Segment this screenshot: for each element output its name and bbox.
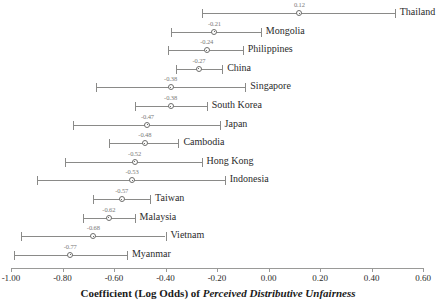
estimate-row: -0.24Philippines (0, 39, 436, 57)
x-axis-tick (372, 268, 373, 272)
point-estimate-value-label: -0.53 (125, 168, 138, 175)
point-estimate-marker (168, 84, 174, 90)
estimate-row: -0.52Hong Kong (0, 151, 436, 169)
confidence-interval-cap-high (150, 195, 151, 204)
x-axis-title-italic: Perceived Distributive Unfairness (203, 287, 356, 299)
confidence-interval-cap-high (222, 65, 223, 74)
point-estimate-marker (168, 103, 174, 109)
estimate-row: 0.12Thailand (0, 2, 436, 20)
confidence-interval-cap-low (73, 121, 74, 130)
estimate-row: -0.38Singapore (0, 76, 436, 94)
confidence-interval-cap-high (178, 139, 179, 148)
x-axis-tick (269, 268, 270, 272)
point-estimate-marker (90, 233, 96, 239)
point-estimate-marker (106, 215, 112, 221)
x-axis-tick-label: 0.40 (364, 273, 380, 283)
estimate-row: -0.48Cambodia (0, 132, 436, 150)
point-estimate-value-label: -0.47 (141, 113, 154, 120)
point-estimate-value-label: -0.62 (102, 206, 115, 213)
x-axis-tick-label: 0.60 (415, 273, 431, 283)
confidence-interval-cap-low (83, 214, 84, 223)
estimate-row: -0.27China (0, 58, 436, 76)
estimate-row: -0.77Myanmar (0, 244, 436, 262)
estimate-row: -0.68Vietnam (0, 225, 436, 243)
category-label: Hong Kong (207, 155, 254, 166)
x-axis-tick (217, 268, 218, 272)
x-axis-tick-label: -0.20 (208, 273, 227, 283)
point-estimate-value-label: -0.77 (64, 243, 77, 250)
x-axis-tick-label: 0.00 (261, 273, 277, 283)
point-estimate-marker (196, 66, 202, 72)
x-axis-tick-label: -0.60 (105, 273, 124, 283)
confidence-interval-cap-low (168, 46, 169, 55)
confidence-interval-cap-high (207, 102, 208, 111)
point-estimate-marker (204, 47, 210, 53)
confidence-interval-cap-high (245, 83, 246, 92)
confidence-interval-cap-high (166, 232, 167, 241)
x-axis-title: Coefficient (Log Odds) of Perceived Dist… (0, 287, 436, 299)
confidence-interval-cap-low (93, 195, 94, 204)
category-label: South Korea (212, 99, 262, 110)
point-estimate-marker (144, 122, 150, 128)
category-label: Mongolia (266, 25, 305, 36)
confidence-interval-cap-low (176, 65, 177, 74)
point-estimate-marker (211, 29, 217, 35)
confidence-interval-cap-high (135, 214, 136, 223)
point-estimate-value-label: -0.52 (128, 150, 141, 157)
confidence-interval-cap-high (225, 176, 226, 185)
confidence-interval-cap-low (202, 9, 203, 18)
estimate-row: -0.62Malaysia (0, 207, 436, 225)
point-estimate-value-label: -0.24 (200, 38, 213, 45)
confidence-interval-cap-high (261, 28, 262, 37)
confidence-interval-cap-low (135, 102, 136, 111)
point-estimate-value-label: -0.38 (164, 75, 177, 82)
confidence-interval-cap-low (171, 28, 172, 37)
x-axis-tick (166, 268, 167, 272)
point-estimate-marker (129, 177, 135, 183)
confidence-interval-cap-low (37, 176, 38, 185)
point-estimate-value-label: -0.57 (115, 187, 128, 194)
point-estimate-value-label: -0.38 (164, 94, 177, 101)
point-estimate-marker (67, 252, 73, 258)
category-label: Vietnam (171, 229, 205, 240)
x-axis-tick (423, 268, 424, 272)
category-label: Thailand (400, 6, 436, 17)
category-label: Philippines (248, 43, 293, 54)
x-axis-tick (114, 268, 115, 272)
confidence-interval-cap-high (202, 158, 203, 167)
confidence-interval-cap-high (220, 121, 221, 130)
estimate-row: -0.53Indonesia (0, 169, 436, 187)
coefficient-plot: 0.12Thailand-0.21Mongolia-0.24Philippine… (0, 0, 436, 300)
point-estimate-value-label: -0.21 (208, 20, 221, 27)
confidence-interval-cap-high (127, 251, 128, 260)
x-axis-tick-label: -1.00 (2, 273, 21, 283)
estimate-row: -0.21Mongolia (0, 21, 436, 39)
point-estimate-marker (296, 10, 302, 16)
point-estimate-marker (132, 159, 138, 165)
point-estimate-marker (119, 196, 125, 202)
category-label: Cambodia (183, 136, 224, 147)
confidence-interval-cap-low (96, 83, 97, 92)
point-estimate-marker (142, 140, 148, 146)
x-axis: -1.00-0.80-0.60-0.40-0.200.000.200.400.6… (0, 268, 436, 300)
x-axis-tick (320, 268, 321, 272)
estimate-row: -0.38South Korea (0, 95, 436, 113)
confidence-interval-cap-low (14, 251, 15, 260)
x-axis-tick-label: -0.40 (156, 273, 175, 283)
point-estimate-value-label: -0.68 (87, 224, 100, 231)
category-label: Japan (225, 118, 248, 129)
confidence-interval-cap-low (109, 139, 110, 148)
category-label: Malaysia (140, 211, 177, 222)
confidence-interval-cap-low (21, 232, 22, 241)
point-estimate-value-label: -0.48 (138, 131, 151, 138)
category-label: Singapore (250, 80, 291, 91)
category-label: Indonesia (230, 173, 269, 184)
estimate-row: -0.57Taiwan (0, 188, 436, 206)
point-estimate-value-label: 0.12 (294, 1, 305, 8)
confidence-interval-cap-high (243, 46, 244, 55)
x-axis-tick (63, 268, 64, 272)
category-label: Taiwan (155, 192, 184, 203)
category-label: Myanmar (132, 248, 171, 259)
estimate-row: -0.47Japan (0, 114, 436, 132)
plot-area: 0.12Thailand-0.21Mongolia-0.24Philippine… (0, 0, 436, 268)
